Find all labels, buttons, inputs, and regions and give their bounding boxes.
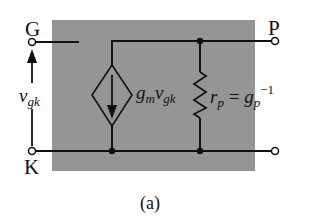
plate-label: P [268,18,280,39]
input-voltage-label: vgk [19,86,40,108]
junction-dot-source [109,148,115,154]
current-source-label: gmvgk [136,83,176,105]
arrow-up-icon [27,49,37,63]
figure-caption: (a) [140,194,160,212]
output-return-terminal [272,148,279,155]
cathode-terminal [29,148,36,155]
small-signal-model-figure: G P K vgk gmvgk rp = gp−1 (a) [0,0,309,218]
junction-dot-bottom [197,148,203,154]
junction-dot-top [197,38,203,44]
cathode-label: K [24,157,39,178]
gate-label: G [25,19,40,40]
resistor-label: rp = gp−1 [210,83,274,109]
circuit-diagram [0,0,309,218]
